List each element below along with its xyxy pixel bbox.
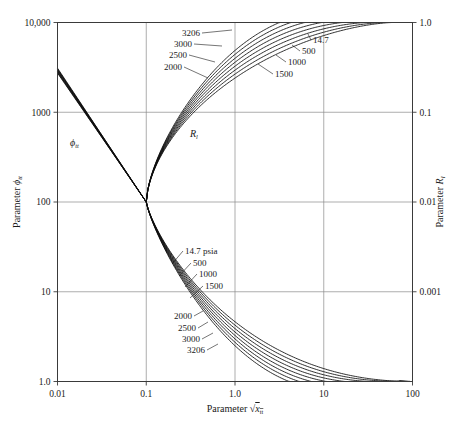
y-axis-left-ticks: 1.010100100010,000 bbox=[24, 18, 57, 387]
phi-pressure-leader bbox=[194, 311, 203, 316]
y-right-tick-label: 0.1 bbox=[420, 108, 432, 118]
y-axis-right-title-text: Parameter Rl bbox=[434, 176, 446, 227]
y-right-tick-label: 0.001 bbox=[420, 287, 442, 297]
y-left-tick-label: 10,000 bbox=[24, 18, 50, 28]
y-right-tick-label: 1.0 bbox=[420, 18, 432, 28]
phi-pressure-leader bbox=[198, 322, 208, 328]
y-left-tick-label: 100 bbox=[36, 197, 51, 207]
phi-pressure-leader bbox=[202, 333, 213, 339]
curve-pressure-labels: 320630002500200014.75001000150014.7 psia… bbox=[164, 28, 329, 355]
x-tick-label: 0.01 bbox=[49, 389, 66, 399]
phi-pressure-label: 1500 bbox=[205, 281, 224, 291]
rl-pressure-label: 2000 bbox=[164, 62, 183, 72]
y-axis-right-ticks: 0.0010.010.11.0 bbox=[413, 18, 442, 297]
y-axis-left-title: Parameter ϕtt bbox=[11, 176, 23, 228]
x-axis-title: Parameter √xtt bbox=[207, 403, 264, 415]
phi-pressure-label: 2500 bbox=[178, 323, 197, 333]
y-axis-left-title-text: Parameter ϕtt bbox=[11, 176, 23, 228]
rl-pressure-leader bbox=[202, 30, 232, 33]
rl-pressure-leader bbox=[258, 64, 273, 74]
x-tick-label: 10 bbox=[319, 389, 329, 399]
rl-pressure-label: 1500 bbox=[275, 69, 294, 79]
x-tick-label: 100 bbox=[405, 389, 420, 399]
phi-pressure-leader bbox=[207, 344, 218, 350]
x-tick-label: 0.1 bbox=[140, 389, 152, 399]
rl-pressure-label: 3000 bbox=[174, 39, 193, 49]
martinelli-correlation-chart: 0.010.11.010100 1.010100100010,000 0.001… bbox=[0, 0, 457, 425]
rl-pressure-label: 14.7 bbox=[313, 35, 329, 45]
rl-pressure-label: 1000 bbox=[288, 57, 307, 67]
rl-pressure-leader bbox=[184, 67, 208, 78]
phi-pressure-label: 1000 bbox=[199, 269, 218, 279]
y-axis-right-title: Parameter Rl bbox=[434, 176, 446, 227]
rl-pressure-label: 2500 bbox=[169, 50, 188, 60]
rl-pressure-label: 500 bbox=[302, 46, 316, 56]
rl-pressure-leader bbox=[189, 55, 215, 62]
rl-annotation: Rl bbox=[189, 128, 198, 140]
phi-pressure-label: 2000 bbox=[174, 311, 193, 321]
x-axis-title-text: Parameter √xtt bbox=[207, 403, 264, 415]
rl-pressure-leader bbox=[194, 44, 222, 46]
y-left-tick-label: 1000 bbox=[32, 108, 51, 118]
x-tick-label: 1.0 bbox=[229, 389, 241, 399]
phi-tt-annotation: ϕtt bbox=[70, 137, 79, 149]
y-left-tick-label: 1.0 bbox=[39, 377, 51, 387]
phi-pressure-label: 3206 bbox=[187, 345, 206, 355]
chart-canvas: 0.010.11.010100 1.010100100010,000 0.001… bbox=[0, 0, 457, 425]
phi-pressure-label: 14.7 psia bbox=[185, 246, 218, 256]
svg-text:Rl: Rl bbox=[189, 128, 198, 140]
x-axis-ticks: 0.010.11.010100 bbox=[49, 382, 420, 399]
grid-lines bbox=[58, 23, 413, 382]
phi-pressure-label: 3000 bbox=[182, 334, 201, 344]
rl-pressure-leader bbox=[276, 55, 286, 62]
phi-pressure-label: 500 bbox=[193, 258, 207, 268]
svg-text:ϕtt: ϕtt bbox=[70, 137, 79, 149]
y-left-tick-label: 10 bbox=[41, 287, 51, 297]
rl-pressure-label: 3206 bbox=[182, 28, 201, 38]
